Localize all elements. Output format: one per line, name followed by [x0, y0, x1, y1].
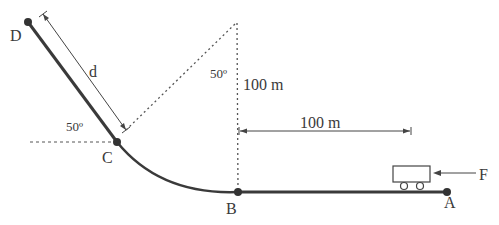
point-c-dot	[113, 138, 121, 146]
point-b-dot	[234, 188, 242, 196]
label-d-dimension: d	[89, 63, 97, 80]
label-force: F	[479, 166, 488, 183]
label-b-point: B	[226, 200, 237, 217]
diagram-canvas: D C B A d 50º 50º 100 m 100 m F	[0, 0, 499, 225]
label-horizontal-distance: 100 m	[300, 114, 341, 131]
label-vertical-distance: 100 m	[243, 76, 284, 93]
label-d-point: D	[10, 27, 22, 44]
label-c-point: C	[102, 149, 113, 166]
label-a-point: A	[444, 194, 456, 211]
point-d-dot	[24, 18, 32, 26]
vertical-dotted-line	[237, 23, 238, 190]
force-arrow	[433, 170, 476, 176]
label-angle-top: 50º	[210, 66, 227, 81]
cart	[393, 166, 430, 190]
dimension-d	[39, 11, 130, 133]
curved-track	[117, 142, 238, 192]
label-angle-c: 50º	[66, 119, 83, 134]
